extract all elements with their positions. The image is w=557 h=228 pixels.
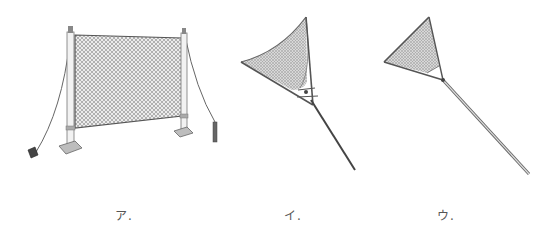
left-base xyxy=(59,141,82,154)
left-guy-wire xyxy=(36,40,70,152)
right-base xyxy=(174,127,193,137)
figure-canvas xyxy=(0,0,557,228)
figure-label-a: ア. xyxy=(115,206,133,223)
fence-net-illustration xyxy=(28,26,217,158)
hand-net-handle-inner xyxy=(442,79,529,174)
hand-net-illustration xyxy=(384,17,529,174)
landing-net-handle xyxy=(311,100,355,170)
figure-label-u: ウ. xyxy=(437,206,455,223)
right-guy-wire xyxy=(185,36,215,122)
right-stake xyxy=(213,122,217,142)
left-anchor xyxy=(28,147,38,158)
landing-net-illustration xyxy=(241,17,355,170)
fence-mesh xyxy=(75,35,182,128)
figure-label-i: イ. xyxy=(284,206,302,223)
